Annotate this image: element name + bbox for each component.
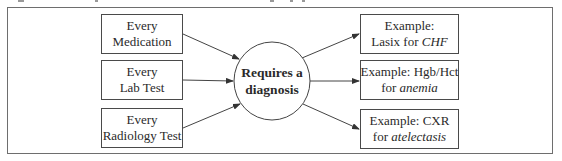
arrow-medication-to-center: [183, 34, 239, 59]
input-label-line1: Every: [126, 18, 157, 34]
center-label-line2: diagnosis: [245, 81, 298, 98]
output-condition: anemia: [400, 80, 438, 95]
center-label-line1: Requires a: [241, 64, 303, 81]
input-label-line1: Every: [126, 112, 157, 128]
output-box-hgb-hct: Example: Hgb/Hct for anemia: [360, 60, 459, 100]
input-label-line2: Medication: [112, 34, 171, 50]
output-label-line1: Example: CXR: [370, 113, 450, 129]
arrow-center-to-lasix: [302, 34, 359, 58]
input-box-radiology-test: Every Radiology Test: [101, 108, 183, 148]
output-box-cxr: Example: CXR for atelectasis: [360, 109, 459, 149]
input-label-line2: Radiology Test: [103, 128, 182, 144]
output-condition: CHF: [422, 34, 448, 49]
output-label-line1: Example:: [385, 18, 435, 34]
input-box-lab-test: Every Lab Test: [101, 60, 183, 100]
center-node: Requires a diagnosis: [234, 42, 310, 120]
output-label-line1: Example: Hgb/Hct: [361, 64, 459, 80]
output-label-line2: for atelectasis: [373, 129, 446, 145]
arrow-lab-to-center: [183, 80, 233, 81]
output-box-lasix: Example: Lasix for CHF: [360, 14, 459, 54]
input-label-line2: Lab Test: [120, 80, 165, 96]
output-prefix: for: [381, 80, 399, 95]
arrow-center-to-cxr: [303, 104, 359, 129]
output-prefix: Lasix for: [371, 34, 422, 49]
input-box-medication: Every Medication: [101, 14, 183, 54]
output-label-line2: Lasix for CHF: [371, 34, 448, 50]
input-label-line1: Every: [126, 64, 157, 80]
output-prefix: for: [373, 129, 391, 144]
output-label-line2: for anemia: [381, 80, 438, 96]
output-condition: atelectasis: [391, 129, 446, 144]
arrow-radiology-to-center: [183, 104, 240, 128]
